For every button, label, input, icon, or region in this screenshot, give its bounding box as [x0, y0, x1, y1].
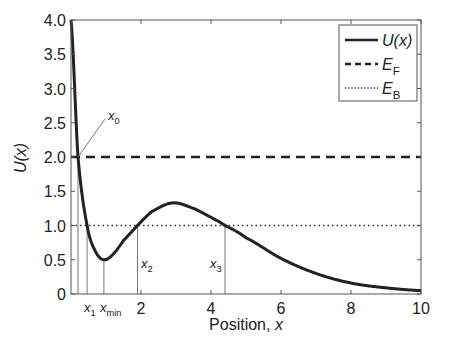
x-tick-label: 4 [207, 300, 216, 317]
x2-label: x2 [140, 256, 153, 274]
x0-leader-line [78, 119, 105, 157]
x-tick-label: 2 [137, 300, 146, 317]
potential-energy-chart: 00.51.01.52.02.53.03.54.0246810 x0x1xmin… [0, 0, 451, 349]
x-tick-label: 10 [412, 300, 430, 317]
x-axis-label: Position, x [209, 316, 284, 333]
y-tick-label: 1.0 [44, 218, 66, 235]
x-tick-label: 8 [347, 300, 356, 317]
xmin-label: xmin [99, 300, 122, 318]
legend-label-0: U(x) [382, 32, 412, 49]
y-tick-label: 2.5 [44, 115, 66, 132]
y-tick-label: 0.5 [44, 252, 66, 269]
x-tick-label: 6 [277, 300, 286, 317]
legend: U(x)EFEB [339, 25, 417, 101]
y-tick-label: 3.5 [44, 46, 66, 63]
x1-label: x1 [83, 300, 96, 318]
x0-label: x0 [107, 108, 120, 126]
y-tick-label: 0 [57, 286, 66, 303]
y-tick-label: 3.0 [44, 81, 66, 98]
y-tick-label: 4.0 [44, 12, 66, 29]
y-tick-label: 2.0 [44, 149, 66, 166]
y-tick-label: 1.5 [44, 183, 66, 200]
y-axis-label: U(x) [12, 143, 29, 173]
x3-label: x3 [209, 256, 222, 274]
